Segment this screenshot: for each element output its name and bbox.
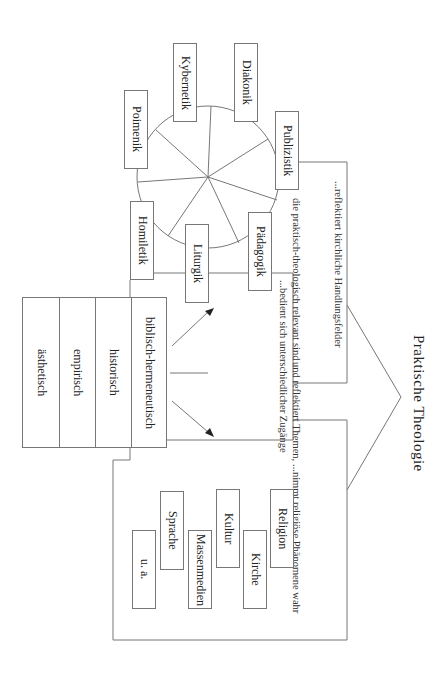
- method-historisch: historisch: [95, 298, 131, 447]
- branch-bedient-text: ...bedient sich unterschiedlicher Zugäng…: [278, 280, 289, 453]
- arrow-head-up-icon: [205, 308, 214, 316]
- field-paedagogik: Pädagogik: [248, 212, 272, 291]
- field-diakonik: Diakonik: [234, 43, 258, 122]
- field-label: Homiletik: [135, 216, 150, 265]
- field-label: Poimenik: [129, 106, 144, 152]
- field-label: Liturgik: [190, 244, 205, 283]
- theme-kultur: Kultur: [216, 489, 240, 568]
- theme-religion: Religion: [270, 489, 294, 568]
- method-biblisch-hermeneutisch: biblisch-hermeneutisch: [131, 298, 167, 447]
- theme-sprache: Sprache: [160, 491, 184, 570]
- nimmt-line-2: und reflektiert Themen,: [290, 362, 303, 461]
- field-label: Publizistik: [280, 125, 295, 176]
- arrow-head-down-icon: [205, 428, 214, 437]
- field-label: Diakonik: [239, 60, 254, 105]
- method-aesthetisch: ästhetisch: [23, 298, 59, 447]
- field-liturgik: Liturgik: [185, 224, 209, 303]
- field-kybernetik: Kybernetik: [173, 43, 197, 122]
- theme-ua: u. a.: [132, 530, 156, 609]
- diagram-title: Praktische Theologie: [410, 335, 427, 472]
- field-label: Pädagogik: [253, 226, 268, 277]
- field-homiletik: Homiletik: [130, 201, 154, 280]
- theme-massenmedien: Massenmedien: [188, 530, 212, 609]
- branch-reflektiert-text: ...reflektiert kirchliche Handlungsfelde…: [333, 181, 344, 347]
- method-empirisch: empirisch: [59, 298, 95, 447]
- field-label: Kybernetik: [178, 56, 193, 110]
- theme-kirche: Kirche: [243, 530, 267, 609]
- field-publizistik: Publizistik: [275, 111, 299, 190]
- nimmt-line-3: die praktisch-theologisch relevant sind: [290, 198, 303, 360]
- methods-table: biblisch-hermeneutisch historisch empiri…: [22, 297, 167, 448]
- field-poimenik: Poimenik: [124, 90, 148, 169]
